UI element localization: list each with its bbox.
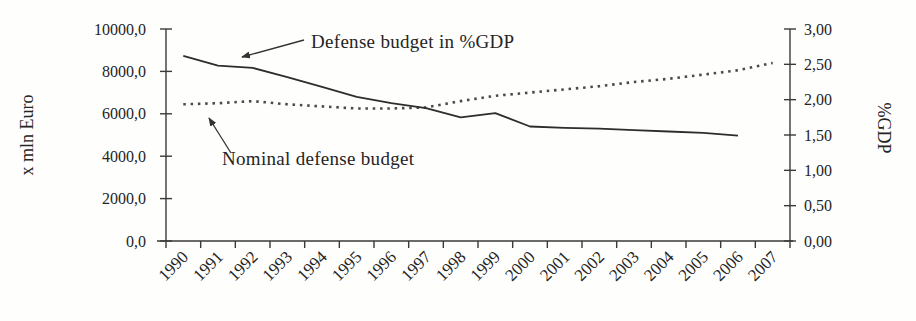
left-axis-tick-label: 2000,0	[102, 190, 146, 207]
x-axis-year-label: 1994	[293, 247, 331, 285]
right-axis-title: %GDP	[874, 102, 894, 153]
series-nominal-defense-budget	[183, 63, 772, 109]
left-axis-tick-label: 4000,0	[102, 148, 146, 165]
right-axis-tick-label: 3,00	[804, 21, 832, 38]
x-axis-year-label: 1995	[328, 247, 365, 284]
x-axis-year-label: 2004	[640, 247, 678, 285]
x-axis-year-label: 2000	[501, 247, 538, 284]
x-axis-year-label: 1998	[432, 247, 469, 284]
x-axis-year-label: 2005	[675, 247, 712, 284]
x-axis-year-label: 2006	[709, 247, 746, 284]
left-axis-tick-label: 6000,0	[102, 105, 146, 122]
left-axis-tick-label: 10000,0	[94, 21, 146, 38]
left-axis-tick-label: 0,0	[126, 233, 146, 250]
right-axis-tick-label: 0,00	[804, 233, 832, 250]
defense-budget-chart: 0,02000,04000,06000,08000,010000,00,000,…	[0, 0, 916, 321]
x-axis-year-label: 2003	[605, 247, 642, 284]
x-axis-year-label: 1992	[224, 247, 261, 284]
axes	[157, 29, 796, 248]
x-axis-year-label: 1997	[397, 247, 435, 285]
arrow-to-solid-line	[242, 40, 304, 57]
x-axis-year-label: 1993	[259, 247, 296, 284]
left-axis-title: x mln Euro	[17, 95, 37, 176]
right-axis-tick-label: 2,50	[804, 56, 832, 73]
x-axis-year-label: 1999	[467, 247, 504, 284]
x-axis-year-label: 2002	[571, 247, 608, 284]
annotation-defense-budget-pct-gdp: Defense budget in %GDP	[311, 31, 514, 53]
right-axis-tick-label: 1,50	[804, 127, 832, 144]
series-defense-budget-in-gdp	[183, 56, 738, 136]
x-axis-year-label: 2007	[744, 247, 782, 285]
x-axis-year-label: 2001	[536, 247, 573, 284]
x-axis-year-label: 1991	[189, 247, 226, 284]
left-axis-tick-label: 8000,0	[102, 63, 146, 80]
annotation-nominal-defense-budget: Nominal defense budget	[222, 148, 414, 170]
x-axis-year-label: 1990	[155, 247, 192, 284]
right-axis-tick-label: 1,00	[804, 162, 832, 179]
x-axis-year-label: 1996	[363, 247, 400, 284]
right-axis-tick-label: 2,00	[804, 91, 832, 108]
right-axis-tick-label: 0,50	[804, 197, 832, 214]
